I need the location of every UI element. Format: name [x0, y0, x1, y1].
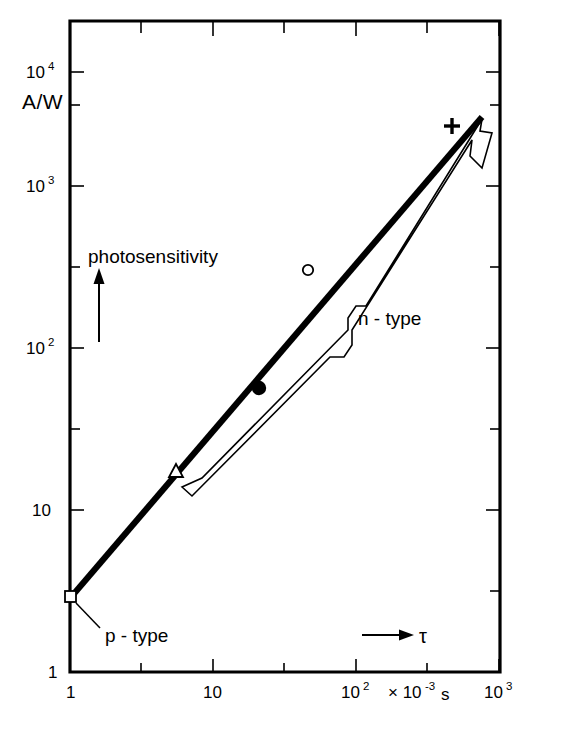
marker-open-circle	[303, 265, 313, 275]
y-tick-label-10000: 10	[26, 63, 45, 82]
x-tick-exp-100: 2	[363, 680, 369, 692]
x-tick-label-10: 10	[203, 683, 222, 702]
chart-svg: A/W 10 4 10 3 10 2 10 1 1 10 10 2	[0, 0, 566, 732]
y-tick-label-1000: 10	[26, 177, 45, 196]
y-tick-labels: 10 4 10 3 10 2 10 1	[26, 60, 57, 682]
tau-label: τ	[419, 625, 427, 647]
p-type-label: p - type	[105, 625, 168, 646]
y-tick-exp-1000: 3	[48, 174, 54, 186]
data-markers	[65, 118, 460, 602]
tau-arrow	[362, 630, 414, 641]
n-type-label: n - type	[358, 308, 421, 329]
y-axis-ticks-right	[486, 72, 500, 591]
y-axis-ticks-left	[70, 72, 84, 591]
photosensitivity-arrow	[94, 268, 105, 342]
marker-open-square	[65, 591, 76, 602]
x-unit-prefix: × 10	[388, 683, 422, 702]
x-unit-annotation: × 10 -3 s	[388, 680, 450, 704]
y-tick-exp-10000: 4	[48, 60, 55, 72]
y-tick-label-100: 10	[26, 339, 45, 358]
y-tick-exp-100: 2	[48, 336, 54, 348]
marker-filled-circle	[252, 381, 266, 395]
y-tick-label-10: 10	[32, 501, 51, 520]
x-tick-label-100: 10	[341, 683, 360, 702]
x-unit-symbol: s	[441, 685, 450, 704]
p-type-leader	[76, 603, 100, 628]
n-type-envelope	[182, 119, 492, 496]
photosensitivity-label: photosensitivity	[88, 246, 218, 267]
y-tick-label-1: 1	[48, 663, 57, 682]
x-tick-label-1: 1	[66, 683, 75, 702]
x-unit-exponent: -3	[425, 680, 435, 692]
x-tick-exp-1000: 3	[506, 680, 512, 692]
x-axis-ticks-top	[141, 21, 499, 36]
x-tick-label-1000: 10	[484, 683, 503, 702]
y-axis-title: A/W	[22, 90, 63, 113]
figure-root: A/W 10 4 10 3 10 2 10 1 1 10 10 2	[0, 0, 566, 732]
main-trend-line	[72, 117, 482, 596]
x-axis-ticks-bottom	[70, 659, 499, 672]
leader-lines	[76, 603, 100, 628]
marker-plus	[444, 118, 460, 134]
